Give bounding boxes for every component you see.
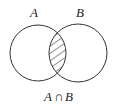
venn-diagram: A B A ∩ B	[0, 0, 113, 106]
set-b-label: B	[76, 5, 84, 20]
caption-intersection-symbol: ∩	[54, 89, 63, 104]
caption-set-b: B	[65, 89, 73, 104]
set-a-label: A	[29, 5, 38, 20]
caption-set-a: A	[43, 89, 52, 104]
intersection-caption: A ∩ B	[43, 89, 73, 104]
